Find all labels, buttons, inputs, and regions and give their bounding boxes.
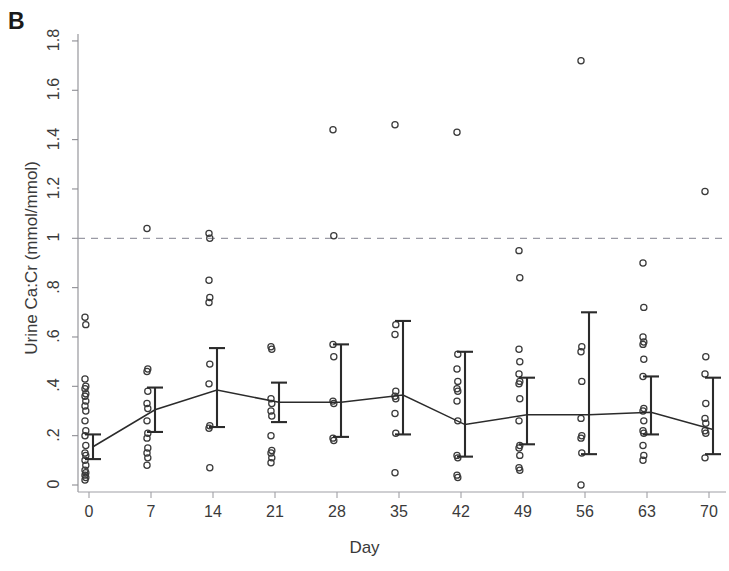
x-tick-label: 21 <box>255 503 295 521</box>
y-tick-label: 0 <box>45 466 63 502</box>
y-tick-label: .4 <box>45 367 63 403</box>
data-point <box>392 331 398 337</box>
figure-panel: B Urine Ca:Cr (mmol/mmol) Day 0.2.4.6.81… <box>0 0 729 571</box>
data-point <box>641 304 647 310</box>
data-point <box>331 354 337 360</box>
data-point <box>702 455 708 461</box>
data-point <box>578 415 584 421</box>
x-tick-label: 28 <box>317 503 357 521</box>
data-point <box>268 433 274 439</box>
x-tick-label: 63 <box>627 503 667 521</box>
data-point <box>206 381 212 387</box>
data-point <box>207 361 213 367</box>
data-point <box>392 410 398 416</box>
data-point <box>578 482 584 488</box>
y-tick-label: 1.4 <box>45 121 63 157</box>
data-point <box>516 418 522 424</box>
y-tick-label: 1.6 <box>45 71 63 107</box>
data-point <box>703 400 709 406</box>
data-point <box>82 418 88 424</box>
data-point <box>517 359 523 365</box>
data-point <box>331 233 337 239</box>
y-tick-label: .8 <box>45 269 63 305</box>
data-point <box>454 366 460 372</box>
x-tick-label: 56 <box>565 503 605 521</box>
data-point <box>702 188 708 194</box>
data-point <box>578 58 584 64</box>
scatter-plot <box>0 0 729 571</box>
data-point <box>454 129 460 135</box>
data-point <box>516 346 522 352</box>
data-point <box>640 442 646 448</box>
data-point <box>392 470 398 476</box>
x-tick-label: 49 <box>503 503 543 521</box>
data-point <box>517 275 523 281</box>
data-point <box>641 356 647 362</box>
data-point <box>206 277 212 283</box>
y-tick-label: 1 <box>45 219 63 255</box>
data-point <box>144 418 150 424</box>
y-tick-label: .6 <box>45 318 63 354</box>
x-tick-label: 70 <box>689 503 729 521</box>
x-tick-label: 14 <box>193 503 233 521</box>
data-point <box>83 442 89 448</box>
data-point <box>82 314 88 320</box>
data-point <box>145 388 151 394</box>
data-point <box>641 418 647 424</box>
data-point <box>144 225 150 231</box>
data-point <box>82 376 88 382</box>
x-tick-label: 35 <box>379 503 419 521</box>
y-tick-label: 1.8 <box>45 22 63 58</box>
data-point <box>392 122 398 128</box>
data-point <box>516 248 522 254</box>
data-point <box>207 465 213 471</box>
x-tick-label: 42 <box>441 503 481 521</box>
data-point <box>640 260 646 266</box>
data-point <box>455 378 461 384</box>
data-point <box>702 371 708 377</box>
data-point <box>393 322 399 328</box>
y-tick-label: .2 <box>45 417 63 453</box>
data-point <box>703 354 709 360</box>
data-point <box>330 127 336 133</box>
data-point <box>454 398 460 404</box>
data-point <box>516 371 522 377</box>
data-point <box>579 378 585 384</box>
data-point <box>144 462 150 468</box>
data-point <box>517 452 523 458</box>
y-tick-label: 1.2 <box>45 170 63 206</box>
x-tick-label: 0 <box>69 503 109 521</box>
data-point <box>83 322 89 328</box>
x-tick-label: 7 <box>131 503 171 521</box>
data-point <box>517 396 523 402</box>
